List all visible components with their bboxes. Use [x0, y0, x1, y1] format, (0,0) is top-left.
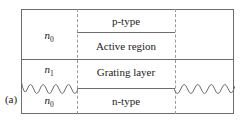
index-subscript: 1	[50, 69, 54, 78]
refractive-index-label-n1: n1	[21, 64, 77, 78]
refractive-index-label-n0-bottom: n0	[21, 95, 77, 109]
index-subscript: 0	[50, 35, 54, 44]
layer-label-active-region: Active region	[77, 41, 175, 52]
layer-label-ptype: p-type	[77, 16, 175, 27]
layer-label-grating-layer: Grating layer	[77, 67, 175, 78]
index-subscript: 0	[50, 100, 54, 109]
divider-grating-layer-ntype	[77, 88, 175, 89]
layer-label-ntype: n-type	[77, 96, 175, 107]
divider-ptype-active-region	[77, 32, 175, 33]
figure-part-label: (a)	[1, 94, 21, 105]
divider-active-region-grating-layer	[21, 59, 234, 60]
grating-corrugation-right	[174, 78, 235, 99]
figure-panel: p-type Active region Grating layer n-typ…	[0, 0, 248, 122]
refractive-index-label-n0-top: n0	[21, 30, 77, 44]
